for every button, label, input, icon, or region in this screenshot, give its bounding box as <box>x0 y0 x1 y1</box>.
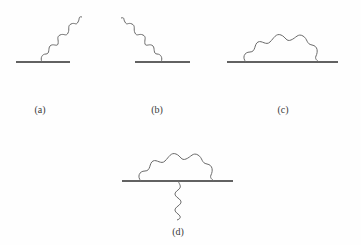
label-d: (d) <box>172 226 184 237</box>
diagram-b <box>121 18 190 62</box>
label-b: (b) <box>151 104 163 115</box>
photon-line-b <box>121 18 162 62</box>
diagram-c <box>227 35 338 62</box>
label-a: (a) <box>34 104 45 115</box>
photon-loop-c <box>244 35 319 62</box>
diagram-svg <box>0 0 361 245</box>
photon-loop-d <box>139 154 214 181</box>
diagram-d <box>122 154 233 220</box>
diagram-a <box>16 17 82 62</box>
label-c: (c) <box>277 104 288 115</box>
photon-line-a <box>41 17 82 62</box>
external-photon-d <box>175 181 181 220</box>
feynman-diagram-figure: (a) (b) (c) (d) <box>0 0 361 245</box>
